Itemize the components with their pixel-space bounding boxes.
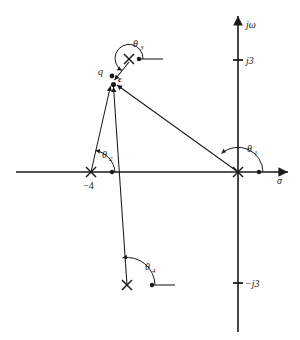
theta-3-subscript: 3 bbox=[139, 44, 144, 52]
tick-label-j3: j3 bbox=[244, 55, 254, 66]
labels-group: jω σ j3 −j3 −4 q ε θ 1 θ 2 θ 3 θ 4 bbox=[83, 19, 283, 289]
test-point-q-dot bbox=[111, 82, 116, 87]
epsilon-label: ε bbox=[118, 74, 122, 84]
theta-4-symbol: θ bbox=[145, 261, 150, 272]
theta-1-symbol: θ bbox=[247, 143, 252, 154]
theta-1-subscript: 1 bbox=[254, 149, 258, 157]
angle-label-theta-3: θ 3 bbox=[133, 38, 144, 52]
sigma-axis-label: σ bbox=[277, 175, 283, 186]
ref-dot-theta-4 bbox=[150, 283, 154, 287]
theta-2-subscript: 2 bbox=[109, 155, 113, 163]
arc-theta-4 bbox=[123, 257, 156, 285]
jomega-axis-label: jω bbox=[244, 19, 256, 30]
theta-3-symbol: θ bbox=[133, 38, 138, 49]
vector-from-origin bbox=[117, 85, 238, 172]
ref-dot-theta-1 bbox=[257, 170, 261, 174]
epsilon-dot bbox=[110, 74, 115, 79]
angle-label-theta-4: θ 4 bbox=[145, 261, 156, 275]
vector-from-lower-pole bbox=[114, 87, 128, 285]
angle-label-theta-1: θ 1 bbox=[247, 143, 258, 157]
tick-label-minus-j3: −j3 bbox=[245, 278, 260, 289]
theta-2-symbol: θ bbox=[102, 149, 107, 160]
s-plane-plot: jω σ j3 −j3 −4 q ε θ 1 θ 2 θ 3 θ 4 bbox=[0, 0, 300, 340]
ref-dot-theta-3 bbox=[137, 57, 141, 61]
test-point-label-q: q bbox=[98, 66, 103, 77]
theta-4-subscript: 4 bbox=[152, 267, 156, 275]
pole-label-minus-4: −4 bbox=[83, 180, 94, 191]
ref-dot-theta-2 bbox=[110, 170, 114, 174]
vector-from-minus-4 bbox=[91, 86, 111, 172]
pole-zero-figure: jω σ j3 −j3 −4 q ε θ 1 θ 2 θ 3 θ 4 bbox=[0, 0, 300, 340]
